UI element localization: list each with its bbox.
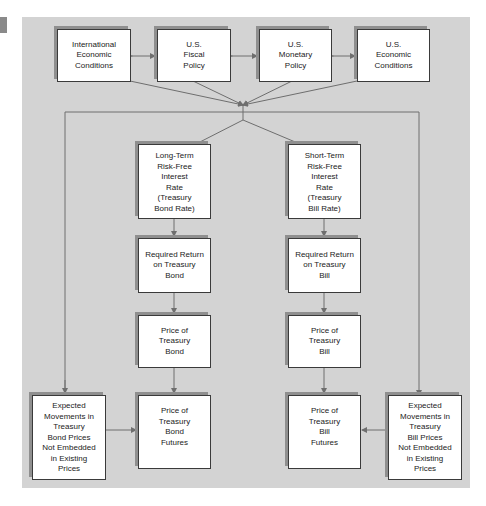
- box-label: U.S. Economic Conditions: [375, 40, 413, 72]
- box-price-bond-futures: Price of Treasury Bond Futures: [138, 395, 211, 469]
- box-expected-bill-movements: Expected Movements in Treasury Bill Pric…: [388, 395, 462, 480]
- box-expected-bond-movements: Expected Movements in Treasury Bond Pric…: [32, 395, 106, 480]
- box-label: Price of Treasury Bill Futures: [309, 406, 340, 448]
- box-label: International Economic Conditions: [72, 40, 116, 72]
- box-label: Expected Movements in Treasury Bond Pric…: [42, 401, 95, 475]
- box-label: Expected Movements in Treasury Bill Pric…: [398, 401, 451, 475]
- box-label: U.S. Fiscal Policy: [183, 40, 204, 72]
- box-us-economic-conditions: U.S. Economic Conditions: [357, 29, 430, 82]
- box-required-return-bill: Required Return on Treasury Bill: [288, 238, 361, 293]
- box-price-treasury-bond: Price of Treasury Bond: [138, 315, 211, 368]
- box-required-return-bond: Required Return on Treasury Bond: [138, 238, 211, 293]
- box-price-treasury-bill: Price of Treasury Bill: [288, 315, 361, 368]
- box-us-monetary-policy: U.S. Monetary Policy: [259, 29, 332, 82]
- box-short-term-rate: Short-Term Risk-Free Interest Rate (Trea…: [288, 144, 361, 219]
- box-label: Required Return on Treasury Bill: [295, 250, 354, 282]
- box-label: Short-Term Risk-Free Interest Rate (Trea…: [305, 151, 345, 214]
- box-label: Price of Treasury Bill: [309, 326, 340, 358]
- box-label: Price of Treasury Bond Futures: [159, 406, 190, 448]
- box-label: Price of Treasury Bond: [159, 326, 190, 358]
- box-long-term-rate: Long-Term Risk-Free Interest Rate (Treas…: [138, 144, 211, 219]
- box-label: U.S. Monetary Policy: [279, 40, 312, 72]
- box-label: Required Return on Treasury Bond: [145, 250, 204, 282]
- box-price-bill-futures: Price of Treasury Bill Futures: [288, 395, 361, 469]
- box-international-economic-conditions: International Economic Conditions: [57, 29, 131, 82]
- box-us-fiscal-policy: U.S. Fiscal Policy: [157, 29, 231, 82]
- box-label: Long-Term Risk-Free Interest Rate (Treas…: [154, 151, 194, 214]
